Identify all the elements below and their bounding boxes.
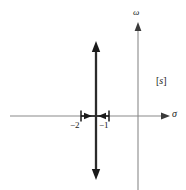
root-locus-plot	[0, 0, 186, 190]
s-plane-bracket-close: ]	[163, 75, 166, 86]
sigma-axis-label: σ	[172, 109, 177, 119]
imag-axis-arrowhead-icon	[135, 22, 142, 31]
omega-axis-label: ω	[133, 8, 139, 17]
s-plane-annotation: [s]	[156, 76, 167, 86]
tick-label-neg-1: −1	[99, 121, 109, 130]
vertical-locus-arrowhead-down-icon	[92, 169, 100, 180]
root-locus-figure: ω σ [s] −2 −1	[0, 0, 186, 190]
locus-arrowhead-right-icon	[84, 113, 92, 120]
real-axis-arrowhead-icon	[161, 113, 170, 120]
locus-arrowhead-left-icon	[98, 113, 106, 120]
axes-group	[10, 22, 170, 190]
tick-label-neg-2: −2	[70, 121, 80, 130]
vertical-locus-branch	[92, 41, 100, 180]
vertical-locus-arrowhead-up-icon	[92, 41, 100, 52]
